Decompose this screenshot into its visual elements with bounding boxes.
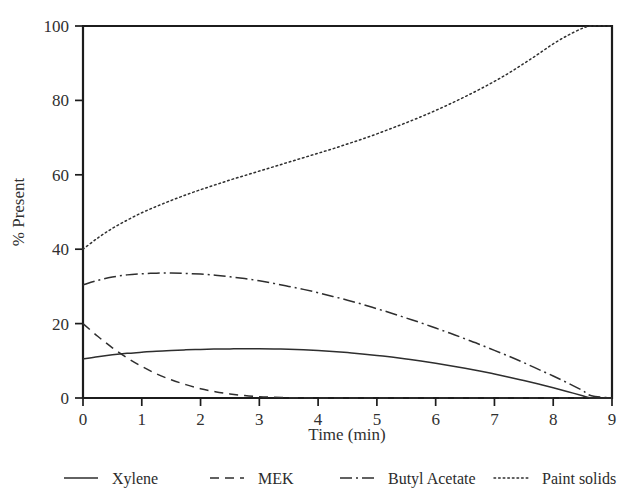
y-tick-label: 80 bbox=[52, 91, 69, 110]
legend-label-xylene: Xylene bbox=[112, 470, 158, 488]
series-curve-xylene bbox=[83, 349, 612, 398]
x-tick-label: 9 bbox=[608, 410, 617, 429]
y-tick-label: 0 bbox=[61, 389, 70, 408]
x-axis-title: Time (min) bbox=[308, 425, 385, 444]
x-tick-label: 7 bbox=[490, 410, 499, 429]
series-curve-butyl-acetate bbox=[83, 273, 612, 398]
solvent-evaporation-chart: 020406080100 0123456789 Time (min) % Pre… bbox=[0, 0, 644, 504]
x-tick-label: 2 bbox=[196, 410, 205, 429]
series-curve-paint-solids bbox=[83, 26, 612, 249]
y-tick-label: 100 bbox=[44, 17, 70, 36]
x-tick-label: 6 bbox=[431, 410, 440, 429]
series-curve-mek bbox=[83, 324, 612, 398]
plot-frame bbox=[83, 26, 612, 398]
y-axis-title: % Present bbox=[9, 178, 28, 247]
x-tick-label: 0 bbox=[79, 410, 88, 429]
x-tick-label: 3 bbox=[255, 410, 264, 429]
legend-label-mek: MEK bbox=[258, 470, 294, 487]
chart-figure: 020406080100 0123456789 Time (min) % Pre… bbox=[0, 0, 644, 504]
x-tick-label: 1 bbox=[138, 410, 147, 429]
legend-label-butyl-acetate: Butyl Acetate bbox=[388, 470, 476, 488]
series-curves bbox=[83, 26, 612, 398]
y-tick-label: 20 bbox=[52, 315, 69, 334]
legend-label-paint-solids: Paint solids bbox=[542, 470, 616, 487]
y-axis-ticks: 020406080100 bbox=[44, 17, 84, 408]
chart-legend: XyleneMEKButyl AcetatePaint solids bbox=[64, 470, 616, 488]
y-tick-label: 60 bbox=[52, 166, 69, 185]
y-tick-label: 40 bbox=[52, 240, 69, 259]
x-tick-label: 8 bbox=[549, 410, 558, 429]
